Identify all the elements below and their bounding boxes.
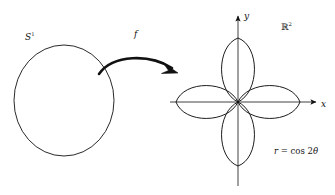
circle-shape-icon	[14, 45, 114, 156]
curved-arrow-head-icon	[162, 63, 179, 74]
codomain-label: ℝ2	[281, 23, 292, 32]
x-axis-label: x	[321, 100, 326, 109]
polar-equation-label: r = cos 2θ	[274, 147, 318, 156]
curved-arrow-icon	[99, 58, 172, 74]
domain-label: S1	[25, 33, 35, 42]
y-axis-label: y	[244, 12, 249, 21]
map-label-f: f	[134, 30, 137, 39]
figure-canvas: S1 f ℝ2 x y r = cos 2θ	[0, 0, 335, 195]
